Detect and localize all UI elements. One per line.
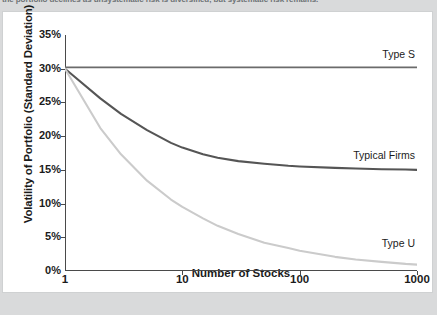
series-label: Typical Firms bbox=[353, 149, 415, 161]
y-axis-tick-mark bbox=[61, 204, 65, 205]
y-axis-tick-label: 35% bbox=[15, 28, 61, 40]
y-axis-tick-label: 15% bbox=[15, 163, 61, 175]
y-axis-tick-mark bbox=[61, 136, 65, 137]
plot-area: 0%5%10%15%20%25%30%35%1101001000Type STy… bbox=[65, 35, 417, 271]
y-axis-tick-label: 5% bbox=[15, 230, 61, 242]
series-label: Type U bbox=[382, 237, 415, 249]
y-axis-tick-label: 25% bbox=[15, 95, 61, 107]
x-axis-tick-label: 1000 bbox=[387, 273, 437, 285]
x-axis-tick-mark bbox=[300, 271, 301, 275]
figure-caption-text: the portfolio declines as unsystematic r… bbox=[0, 0, 437, 4]
y-axis-tick-label: 10% bbox=[15, 197, 61, 209]
series-line bbox=[65, 69, 417, 265]
series-label: Type S bbox=[382, 48, 415, 60]
x-axis-tick-label: 1 bbox=[35, 273, 95, 285]
y-axis-tick-mark bbox=[61, 237, 65, 238]
y-axis-tick-mark bbox=[61, 69, 65, 70]
y-axis-tick-mark bbox=[61, 170, 65, 171]
figure-caption: the portfolio declines as unsystematic r… bbox=[0, 0, 437, 9]
x-axis-tick-mark bbox=[417, 271, 418, 275]
y-axis-tick-mark bbox=[61, 102, 65, 103]
x-axis-tick-mark bbox=[182, 271, 183, 275]
y-axis-tick-label: 30% bbox=[15, 62, 61, 74]
chart-figure: Volatility of Portfolio (Standard Deviat… bbox=[2, 11, 433, 293]
y-axis-tick-label: 20% bbox=[15, 129, 61, 141]
